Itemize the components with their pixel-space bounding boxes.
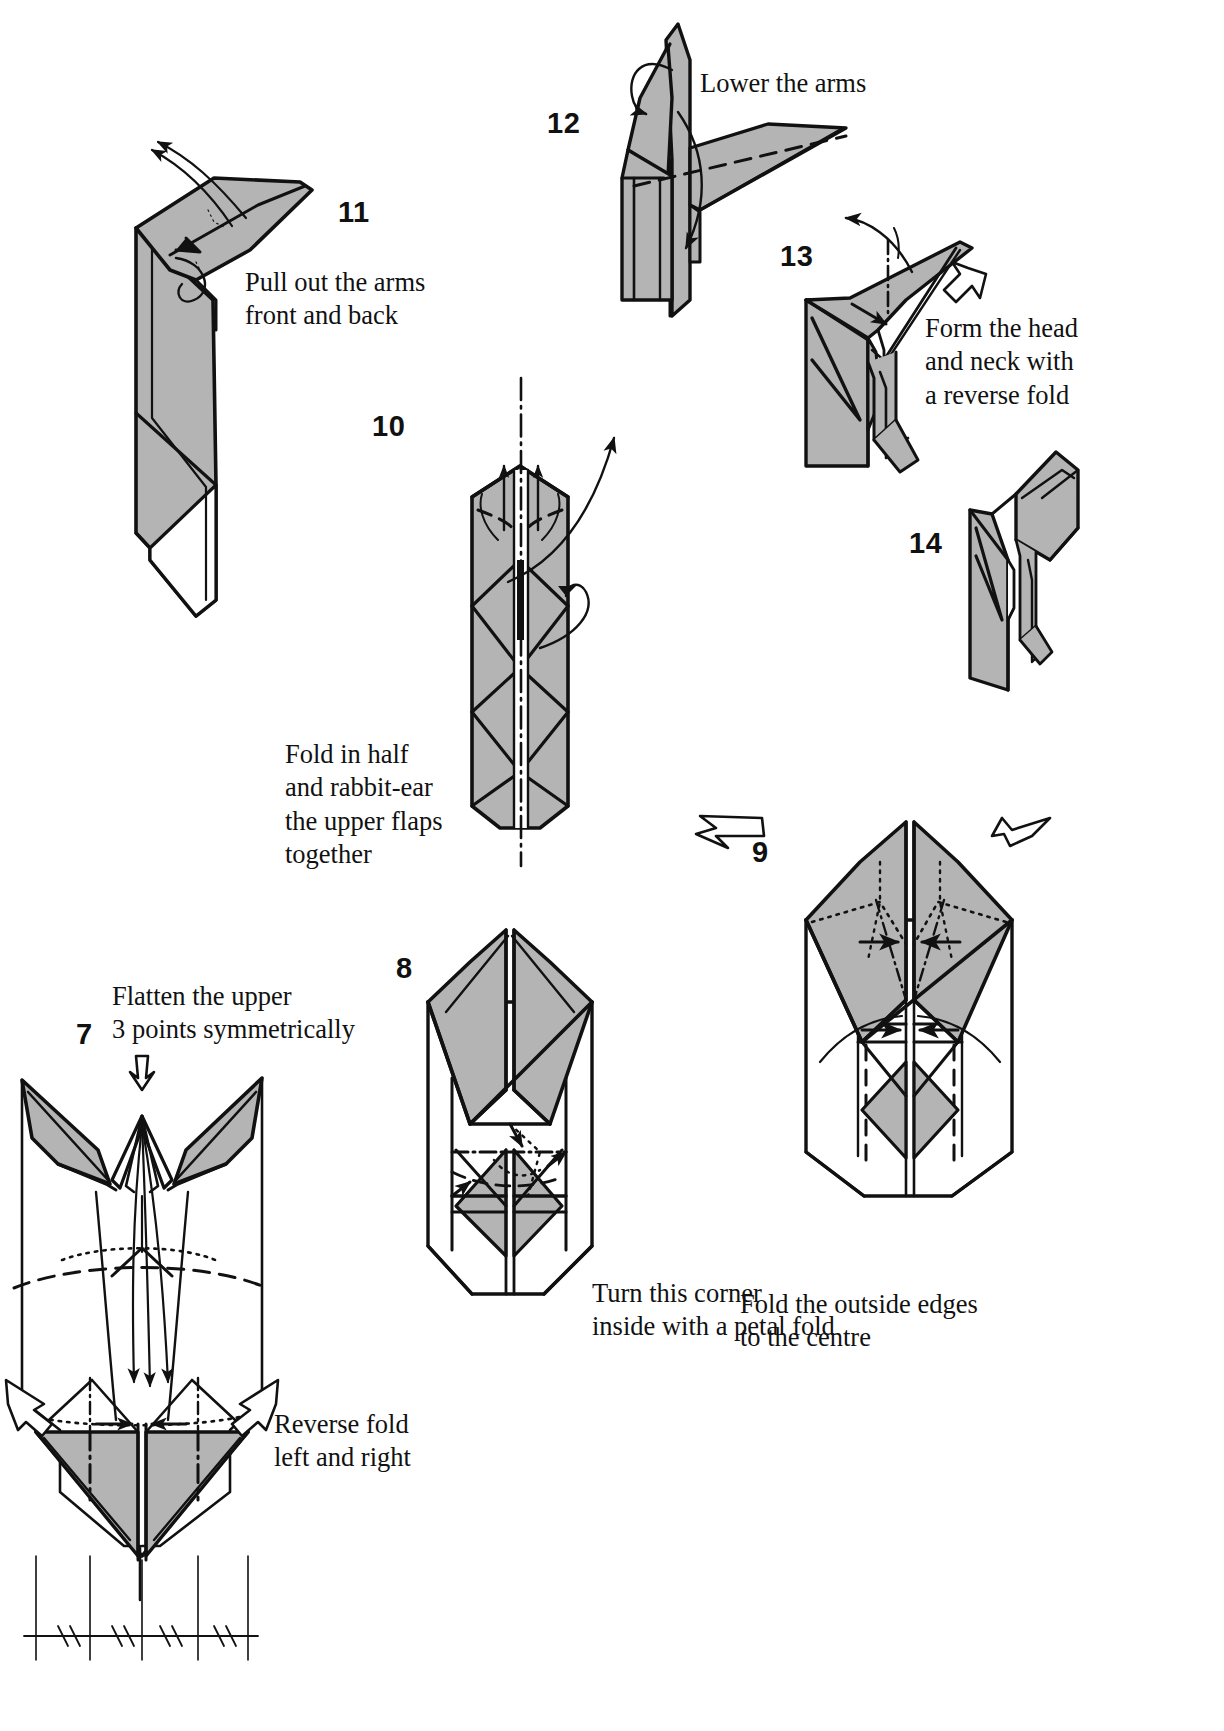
figure-step-11 [136,142,312,616]
step-number-7: 7 [76,1018,93,1051]
step-number-10: 10 [372,410,405,443]
origami-diagram-page: 7 8 9 10 11 12 13 14 Pull out the arms f… [0,0,1224,1731]
step-number-14: 14 [909,527,942,560]
figure-step-14 [970,452,1078,690]
figure-step-9 [696,816,1050,1196]
caption-step-8: Turn this corner inside with a petal fol… [592,1277,835,1344]
step-number-12: 12 [547,107,580,140]
caption-step-11: Pull out the arms front and back [245,266,425,333]
step-number-9: 9 [752,836,769,869]
figure-step-10 [472,378,614,866]
caption-step-12: Lower the arms [700,67,866,100]
figure-step-8 [428,930,592,1294]
caption-step-13: Form the head and neck with a reverse fo… [925,312,1078,412]
step-number-8: 8 [396,952,413,985]
caption-step-7-flatten: Flatten the upper 3 points symmetrically [112,980,355,1047]
origami-line-art [0,0,1224,1731]
caption-step-7-reverse-fold: Reverse fold left and right [274,1408,411,1475]
step-number-11: 11 [338,196,370,229]
figure-step-7 [6,1056,278,1660]
step-number-13: 13 [780,240,813,273]
caption-step-10: Fold in half and rabbit-ear the upper fl… [285,738,442,872]
